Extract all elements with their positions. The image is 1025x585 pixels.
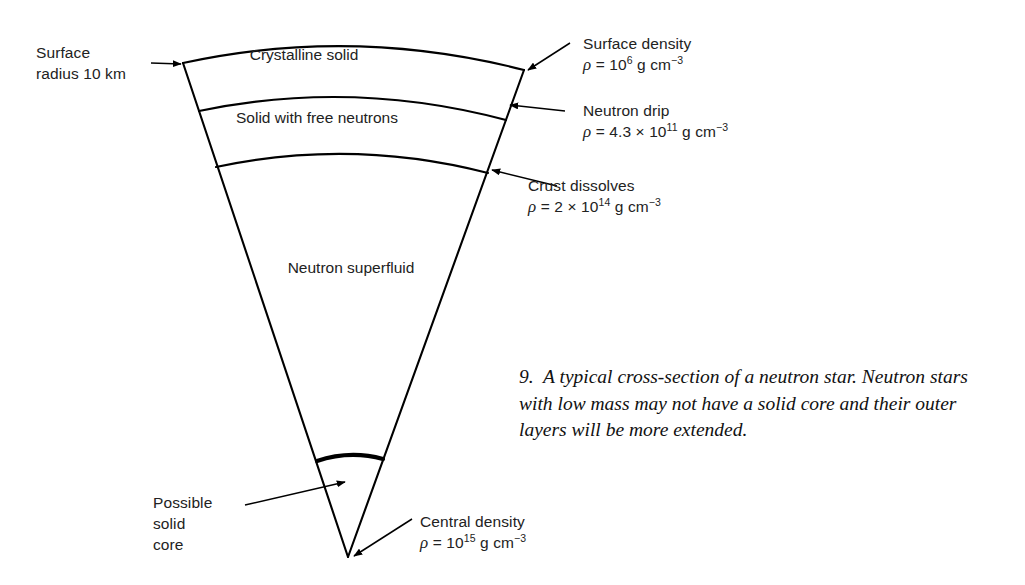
times-sign: × — [567, 198, 576, 215]
units: g cm — [637, 56, 671, 73]
equals-sign: = — [596, 123, 605, 140]
wedge-left-edge — [183, 63, 348, 557]
exponent: 14 — [598, 196, 610, 208]
caption-text: A typical cross-section of a neutron sta… — [519, 366, 968, 440]
caption-number: 9. — [519, 366, 534, 387]
label-neutron-drip-value: ρ = 4.3 × 1011 g cm−3 — [583, 121, 728, 142]
label-crust-dissolves-title: Crust dissolves — [528, 175, 661, 196]
label-central-density-value: ρ = 1015 g cm−3 — [420, 532, 526, 553]
mantissa: 10 — [649, 123, 666, 140]
rho-symbol: ρ — [528, 197, 536, 216]
label-possible-solid-core: Possible solid core — [153, 492, 212, 555]
label-neutron-drip-title: Neutron drip — [583, 100, 728, 121]
mantissa: 10 — [446, 534, 463, 551]
layer-label-solid-with-free-neutrons: Solid with free neutrons — [236, 109, 398, 127]
rho-symbol: ρ — [583, 122, 591, 141]
label-possible-solid-core-line1: Possible — [153, 492, 212, 513]
coefficient: 2 — [554, 198, 563, 215]
units-exponent: −3 — [514, 532, 526, 544]
exponent: 15 — [464, 532, 476, 544]
label-neutron-drip: Neutron drip ρ = 4.3 × 1011 g cm−3 — [583, 100, 728, 142]
leader-central-density — [354, 519, 412, 556]
leader-surface-density — [528, 43, 570, 70]
layer-label-neutron-superfluid: Neutron superfluid — [288, 259, 415, 277]
equals-sign: = — [596, 56, 605, 73]
equals-sign: = — [541, 198, 550, 215]
rho-symbol: ρ — [420, 533, 428, 552]
exponent: 6 — [627, 54, 633, 66]
units-exponent: −3 — [716, 121, 728, 133]
units-exponent: −3 — [649, 196, 661, 208]
layer-label-crystalline-solid: Crystalline solid — [250, 46, 359, 64]
label-surface-radius: Surface radius 10 km — [36, 42, 126, 84]
label-possible-solid-core-line2: solid — [153, 513, 212, 534]
mantissa: 10 — [581, 198, 598, 215]
figure-caption: 9. A typical cross-section of a neutron … — [519, 364, 979, 444]
units: g cm — [480, 534, 514, 551]
leader-surface-radius — [151, 63, 181, 64]
times-sign: × — [636, 123, 645, 140]
label-surface-radius-line2: radius 10 km — [36, 63, 126, 84]
wedge-right-edge — [348, 70, 524, 557]
arc-crust-dissolves — [216, 154, 488, 173]
label-surface-density-value: ρ = 106 g cm−3 — [583, 54, 691, 75]
label-surface-density: Surface density ρ = 106 g cm−3 — [583, 33, 691, 75]
label-central-density: Central density ρ = 1015 g cm−3 — [420, 511, 526, 553]
label-crust-dissolves: Crust dissolves ρ = 2 × 1014 g cm−3 — [528, 175, 661, 217]
mantissa: 10 — [609, 56, 626, 73]
label-surface-radius-line1: Surface — [36, 42, 126, 63]
equals-sign: = — [433, 534, 442, 551]
coefficient: 4.3 — [609, 123, 631, 140]
leader-neutron-drip — [510, 105, 565, 111]
label-central-density-title: Central density — [420, 511, 526, 532]
arc-solid-core — [317, 455, 383, 461]
units: g cm — [615, 198, 649, 215]
rho-symbol: ρ — [583, 55, 591, 74]
units: g cm — [682, 123, 716, 140]
exponent: 11 — [667, 121, 678, 133]
label-surface-density-title: Surface density — [583, 33, 691, 54]
label-crust-dissolves-value: ρ = 2 × 1014 g cm−3 — [528, 196, 661, 217]
units-exponent: −3 — [671, 54, 683, 66]
label-possible-solid-core-line3: core — [153, 534, 212, 555]
